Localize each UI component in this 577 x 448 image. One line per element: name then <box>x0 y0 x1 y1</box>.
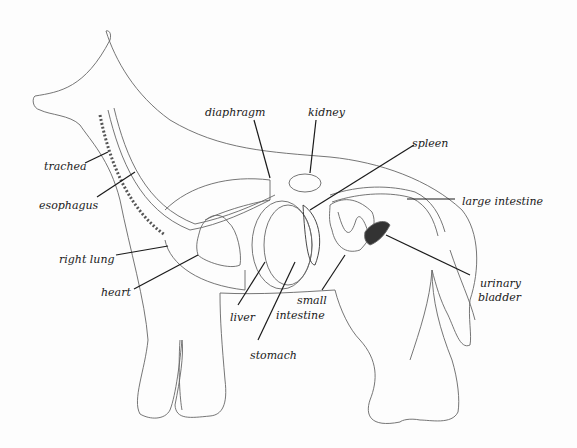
leader-stomach <box>258 262 295 340</box>
leader-spleen <box>310 145 414 210</box>
label-trachea: trachea <box>44 161 87 173</box>
label-small: small <box>297 295 327 307</box>
label-stomach: stomach <box>250 350 297 362</box>
label-diaphragm: diaphragm <box>205 107 266 119</box>
label-bladder: bladder <box>478 292 521 304</box>
leader-diaphragm <box>254 120 270 178</box>
label-intestine: intestine <box>276 310 325 322</box>
label-right-lung: right lung <box>59 254 115 266</box>
leader-small-intestine <box>322 255 345 290</box>
label-heart: heart <box>101 287 131 299</box>
label-urinary: urinary <box>480 278 521 290</box>
leader-kidney <box>310 120 316 173</box>
leader-heart <box>134 255 198 289</box>
label-kidney: kidney <box>308 107 345 119</box>
leader-liver <box>238 262 265 305</box>
label-large-intestine: large intestine <box>462 196 543 208</box>
label-spleen: spleen <box>412 138 448 150</box>
leader-right-lung <box>116 246 168 255</box>
dog-illustration <box>0 0 577 448</box>
label-esophagus: esophagus <box>39 200 98 212</box>
leader-urinary-bladder <box>386 235 470 275</box>
label-liver: liver <box>230 312 255 324</box>
dog-anatomy-diagram: trachea esophagus right lung heart diaph… <box>0 0 577 448</box>
